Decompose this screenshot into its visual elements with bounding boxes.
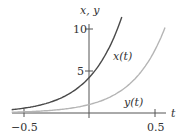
tick-label-05: 0.5 — [147, 121, 165, 134]
x-axis-label: t — [171, 107, 176, 120]
series-label-y: y(t) — [123, 96, 143, 109]
tick-label-5: 5 — [77, 65, 84, 78]
y-axis-label: x, y — [80, 4, 100, 17]
tick-label-10: 10 — [73, 23, 87, 36]
tick-label-neg05: −0.5 — [11, 121, 38, 134]
series-label-x: x(t) — [113, 50, 132, 63]
series-x-curve — [12, 17, 122, 110]
chart: x, y 10 5 −0.5 0.5 t x(t) y(t) — [0, 0, 178, 135]
